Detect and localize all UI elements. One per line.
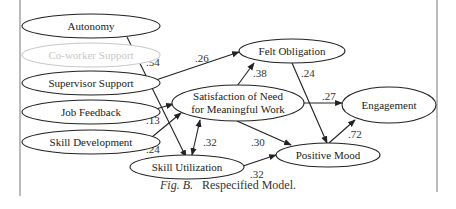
figure-label: Fig. B. bbox=[160, 178, 193, 192]
node-coworker-support: Co-worker Support bbox=[22, 43, 160, 67]
label-supervisor-felt-obligation: .26 bbox=[195, 52, 209, 64]
label-skillutil-satisfaction: .32 bbox=[203, 136, 217, 148]
node-positive-mood-label: Positive Mood bbox=[296, 149, 361, 161]
node-autonomy-label: Autonomy bbox=[67, 20, 115, 32]
node-skill-utilization: Skill Utilization bbox=[130, 155, 244, 179]
node-job-feedback: Job Feedback bbox=[22, 100, 160, 124]
node-satisfaction-label-line2: for Meaningful Work bbox=[191, 103, 285, 115]
node-skill-development: Skill Development bbox=[22, 130, 160, 154]
node-felt-obligation-label: Felt Obligation bbox=[259, 45, 326, 57]
label-satisfaction-positive-mood: .30 bbox=[251, 136, 265, 148]
figure-title: Respecified Model. bbox=[202, 178, 296, 192]
label-felt-obligation-positive-mood: .24 bbox=[301, 67, 315, 79]
edge-skillutil-positive-mood bbox=[243, 155, 276, 166]
node-engagement: Engagement bbox=[342, 87, 436, 123]
node-supervisor-support: Supervisor Support bbox=[22, 71, 160, 95]
node-coworker-support-label: Co-worker Support bbox=[48, 49, 133, 61]
node-satisfaction: Satisfaction of Need for Meaningful Work bbox=[172, 85, 304, 121]
node-skill-development-label: Skill Development bbox=[50, 136, 133, 148]
node-autonomy: Autonomy bbox=[22, 14, 160, 38]
node-felt-obligation: Felt Obligation bbox=[239, 39, 345, 63]
label-satisfaction-engagement: .27 bbox=[322, 90, 336, 102]
label-satisfaction-felt-obligation: .38 bbox=[253, 67, 267, 79]
figure-caption: Fig. B. Respecified Model. bbox=[0, 178, 456, 193]
node-satisfaction-label-line1: Satisfaction of Need bbox=[193, 90, 283, 102]
node-positive-mood: Positive Mood bbox=[276, 143, 380, 167]
label-positive-mood-engagement: .72 bbox=[348, 128, 362, 140]
edge-skillutil-satisfaction bbox=[192, 120, 200, 155]
node-supervisor-support-label: Supervisor Support bbox=[48, 77, 133, 89]
edge-satisfaction-felt-obligation bbox=[237, 63, 254, 86]
node-engagement-label: Engagement bbox=[362, 99, 417, 111]
node-job-feedback-label: Job Feedback bbox=[61, 106, 122, 118]
node-skill-utilization-label: Skill Utilization bbox=[152, 161, 223, 173]
